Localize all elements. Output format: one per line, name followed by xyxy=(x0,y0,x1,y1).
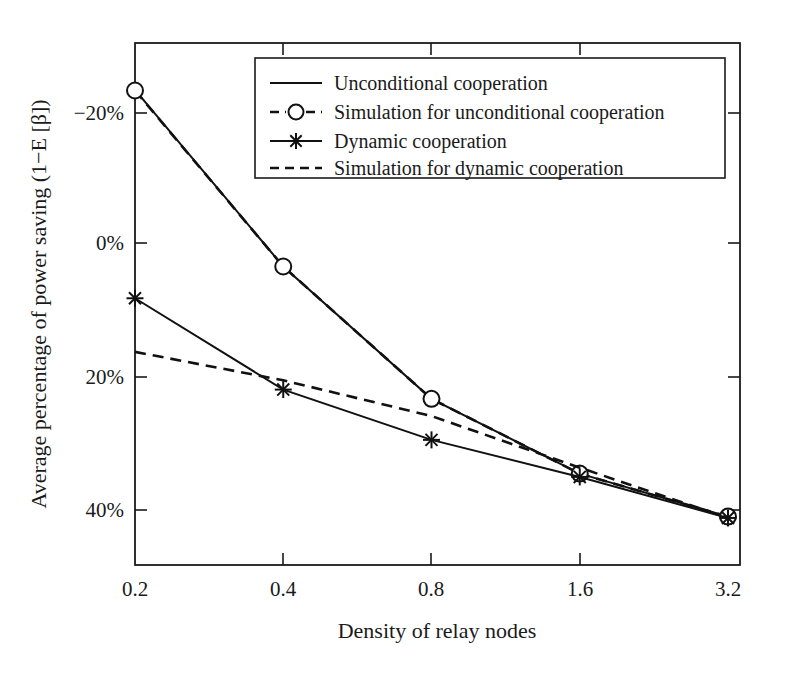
legend-circle-marker xyxy=(289,105,304,120)
y-tick-label-3: 40% xyxy=(86,498,125,522)
y-tick-label-0: −20% xyxy=(74,101,124,125)
x-tick-label-0: 0.2 xyxy=(122,577,148,601)
chart-legend: Unconditional cooperation Simulation for… xyxy=(255,58,725,180)
data-point-star xyxy=(571,468,588,485)
power-saving-line-chart: −20% 0% 20% 40% 0.2 0.4 0.8 1.6 3.2 Dens… xyxy=(0,0,787,674)
data-point-star xyxy=(127,290,144,307)
legend-label-unconditional: Unconditional cooperation xyxy=(334,72,548,95)
y-tick-label-2: 20% xyxy=(86,365,125,389)
x-tick-label-4: 3.2 xyxy=(715,577,741,601)
x-tick-label-3: 1.6 xyxy=(567,577,593,601)
x-tick-label-1: 0.4 xyxy=(270,577,297,601)
data-point-circle xyxy=(127,83,143,99)
legend-label-sim-dynamic: Simulation for dynamic cooperation xyxy=(334,157,623,180)
legend-label-dynamic: Dynamic cooperation xyxy=(334,130,507,153)
y-axis-title: Average percentage of power saving (1−E … xyxy=(26,99,51,508)
legend-star-marker xyxy=(288,133,304,149)
legend-label-sim-unconditional: Simulation for unconditional cooperation xyxy=(334,101,665,124)
chart-figure: −20% 0% 20% 40% 0.2 0.4 0.8 1.6 3.2 Dens… xyxy=(0,0,787,674)
data-point-star xyxy=(275,381,292,398)
data-point-circle xyxy=(424,391,440,407)
y-tick-label-1: 0% xyxy=(96,231,124,255)
x-tick-label-2: 0.8 xyxy=(418,577,444,601)
data-point-circle xyxy=(275,259,291,275)
data-point-star xyxy=(423,431,440,448)
x-axis-title: Density of relay nodes xyxy=(338,618,537,643)
